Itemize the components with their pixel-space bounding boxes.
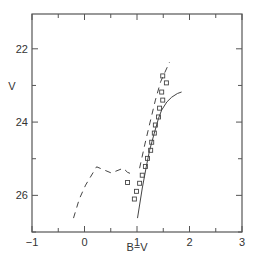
y-tick-label: 22 <box>16 43 28 55</box>
data-point-square <box>158 106 162 110</box>
data-point-square <box>161 98 165 102</box>
x-tick-label: −1 <box>26 236 39 248</box>
data-point-square <box>132 197 136 201</box>
data-point-square <box>160 90 164 94</box>
y-axis-ticks: 222426 <box>16 43 242 232</box>
x-tick-label: 0 <box>81 236 87 248</box>
data-point-square <box>134 189 138 193</box>
y-axis-title: V <box>8 80 16 92</box>
series-line-model-dashed-lower <box>74 167 135 218</box>
data-point-square <box>140 173 144 177</box>
x-tick-label: 3 <box>239 236 245 248</box>
plot-frame <box>32 14 242 232</box>
data-point-square <box>164 81 168 85</box>
cmd-chart: −10123 222426 B−V V <box>0 0 254 266</box>
x-tick-label: 2 <box>186 236 192 248</box>
x-axis-ticks: −10123 <box>26 14 245 248</box>
series-line-model-solid <box>138 92 182 218</box>
data-point-square <box>138 181 142 185</box>
y-tick-label: 24 <box>16 116 28 128</box>
x-axis-title: B−V <box>126 241 148 253</box>
data-series <box>74 62 182 218</box>
data-point-square <box>126 181 130 185</box>
y-tick-label: 26 <box>16 189 28 201</box>
